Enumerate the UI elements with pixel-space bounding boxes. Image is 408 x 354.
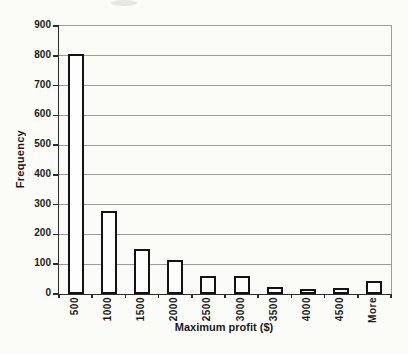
y-axis-tick — [53, 55, 59, 57]
y-tick-label: 700 — [17, 79, 51, 91]
x-tick-label: 500 — [69, 297, 80, 315]
gridline — [59, 204, 391, 205]
x-tick-label: 4500 — [334, 297, 345, 321]
bar-1500 — [134, 249, 150, 294]
x-axis-tick — [324, 294, 326, 298]
y-tick-label: 0 — [17, 287, 51, 299]
y-axis-tick — [53, 234, 59, 236]
gridline — [59, 85, 391, 86]
bar-1000 — [101, 211, 117, 294]
x-axis-tick — [91, 294, 93, 298]
bar-4000 — [300, 289, 316, 294]
y-axis-tick — [53, 85, 59, 87]
y-axis-tick — [53, 144, 59, 146]
y-tick-label: 400 — [17, 168, 51, 180]
x-axis-tick — [125, 294, 127, 298]
x-axis-tick — [58, 294, 60, 298]
gridline — [59, 145, 391, 146]
x-axis-tick — [291, 294, 293, 298]
y-tick-label: 300 — [17, 198, 51, 210]
gridline — [59, 174, 391, 175]
x-tick-label: 2000 — [168, 297, 179, 321]
bar-3500 — [267, 287, 283, 294]
y-tick-label: 800 — [17, 49, 51, 61]
bar-More — [366, 281, 382, 294]
x-axis-title: Maximum profit ($) — [58, 321, 390, 333]
y-axis-tick — [53, 174, 59, 176]
gridline — [59, 55, 391, 56]
y-tick-label: 500 — [17, 138, 51, 150]
bar-2500 — [200, 276, 216, 294]
bar-3000 — [234, 276, 250, 294]
plot-area — [58, 25, 392, 295]
y-axis-tick — [53, 263, 59, 265]
bar-2000 — [167, 260, 183, 294]
x-tick-label: 3000 — [235, 297, 246, 321]
y-tick-labels: 0100200300400500600700800900 — [17, 25, 51, 293]
x-tick-label: 2500 — [201, 297, 212, 321]
gridline — [59, 115, 391, 116]
x-tick-label: 3500 — [268, 297, 279, 321]
bar-500 — [68, 54, 84, 294]
histogram-figure: Frequency 0100200300400500600700800900 5… — [0, 0, 408, 354]
x-axis-tick — [257, 294, 259, 298]
y-tick-label: 200 — [17, 227, 51, 239]
x-tick-label: 1500 — [135, 297, 146, 321]
y-axis-tick — [53, 115, 59, 117]
y-axis-tick — [53, 25, 59, 27]
bar-4500 — [333, 288, 349, 294]
x-axis-tick — [390, 294, 392, 298]
y-tick-label: 100 — [17, 257, 51, 269]
x-axis-tick — [191, 294, 193, 298]
x-axis-tick — [357, 294, 359, 298]
y-tick-label: 900 — [17, 19, 51, 31]
y-axis-tick — [53, 204, 59, 206]
x-tick-label: More — [367, 297, 378, 323]
scan-artifact — [111, 0, 137, 6]
y-tick-label: 600 — [17, 108, 51, 120]
x-axis-tick — [158, 294, 160, 298]
x-tick-label: 4000 — [301, 297, 312, 321]
x-tick-label: 1000 — [102, 297, 113, 321]
x-axis-tick — [224, 294, 226, 298]
